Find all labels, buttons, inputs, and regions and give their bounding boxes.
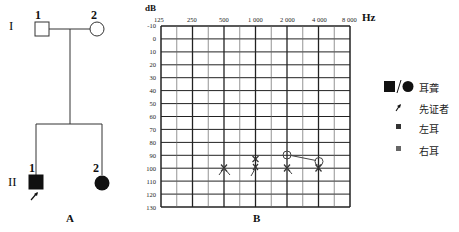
right-ear-marker-icon [396, 146, 401, 151]
proband-arrow-icon [396, 104, 401, 111]
legend-label-left-ear: 左耳 [419, 121, 439, 136]
left-ear-marker-icon [396, 124, 401, 129]
legend-symbols [0, 0, 459, 232]
legend-label-deafness: 耳聋 [419, 80, 439, 95]
filled-square-circle-icon [384, 80, 414, 93]
legend-label-right-ear: 右耳 [419, 143, 439, 158]
legend-label-proband: 先证者 [419, 101, 449, 116]
